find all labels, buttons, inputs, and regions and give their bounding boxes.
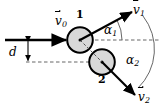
label-alpha2: α2 <box>126 54 139 68</box>
angle-arc-alpha2 <box>138 16 154 88</box>
label-v0-symbol: v <box>55 15 62 27</box>
collision-diagram: v0 v1 v2 α1 α2 d 1 2 <box>0 0 164 109</box>
label-v0-subscript: 0 <box>62 20 67 29</box>
label-v2-subscript: 2 <box>145 96 150 105</box>
label-alpha1: α1 <box>104 24 117 38</box>
label-alpha2-symbol: α <box>126 53 134 67</box>
label-v2: v2 <box>138 91 150 105</box>
label-v1-symbol: v <box>133 4 140 16</box>
label-ball-1: 1 <box>76 9 84 20</box>
label-v1: v1 <box>133 4 145 18</box>
label-v1-subscript: 1 <box>140 9 145 18</box>
label-v2-symbol: v <box>138 91 145 103</box>
label-alpha2-subscript: 2 <box>134 59 139 68</box>
label-impact-parameter: d <box>9 46 17 58</box>
label-alpha1-symbol: α <box>104 23 112 37</box>
angle-arc-alpha1 <box>117 21 122 41</box>
label-d-symbol: d <box>9 45 17 59</box>
label-alpha1-subscript: 1 <box>112 29 117 38</box>
label-v0: v0 <box>55 15 67 29</box>
label-ball-2: 2 <box>98 74 106 85</box>
